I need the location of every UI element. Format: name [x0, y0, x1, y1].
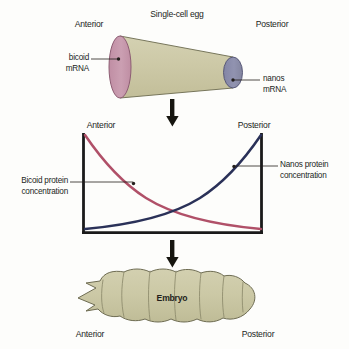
nanos-mrna-label-line2: mRNA — [263, 85, 286, 95]
concentration-graph — [70, 133, 278, 234]
nanos-mrna-region — [224, 57, 243, 88]
egg-title-label: Single-cell egg — [150, 9, 203, 19]
bicoid-protein-label-line2: concentration — [21, 187, 68, 197]
graph-anterior-label: Anterior — [87, 120, 116, 130]
egg-posterior-label: Posterior — [256, 19, 289, 29]
bicoid-mrna-label-line2: mRNA — [66, 64, 89, 74]
bicoid-mrna-label-line1: bicoid — [69, 53, 89, 63]
embryo-title-label: Embryo — [157, 293, 188, 303]
embryo-anterior-label: Anterior — [76, 329, 105, 339]
bicoid-protein-label-line1: Bicoid protein — [21, 176, 68, 186]
nanos-protein-label-line2: concentration — [280, 171, 327, 181]
nanos-mrna-label-line1: nanos — [263, 74, 284, 84]
egg-body — [120, 36, 233, 98]
egg-anterior-label: Anterior — [75, 19, 104, 29]
bicoid-mrna-region — [109, 36, 131, 98]
morphogen-gradient-figure: Anterior Single-cell egg Posterior bicoi… — [0, 0, 349, 349]
egg-illustration — [91, 36, 260, 98]
embryo-posterior-label: Posterior — [242, 329, 275, 339]
arrow-graph-to-embryo — [166, 240, 178, 268]
graph-posterior-label: Posterior — [238, 120, 271, 130]
nanos-protein-label-line1: Nanos protein — [280, 160, 328, 170]
arrow-egg-to-graph — [166, 99, 178, 127]
